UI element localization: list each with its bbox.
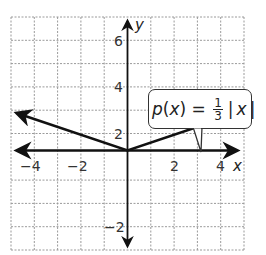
fraction-one-third: 13 bbox=[213, 97, 223, 122]
fraction-numerator: 1 bbox=[213, 97, 223, 110]
tick-label-x-neg2: −2 bbox=[67, 158, 88, 174]
close-paren: ) bbox=[180, 99, 187, 119]
function-variable: x bbox=[169, 99, 179, 119]
fraction-denominator: 3 bbox=[214, 110, 222, 122]
abs-bar-right: | bbox=[250, 99, 256, 119]
tick-label-y-4: 4 bbox=[114, 79, 123, 95]
function-name: p bbox=[152, 99, 163, 119]
tick-label-x-4: 4 bbox=[216, 158, 225, 174]
abs-variable: x bbox=[237, 99, 247, 119]
equals-sign: = bbox=[186, 99, 211, 119]
x-axis-label: x bbox=[232, 157, 242, 175]
tick-label-y-2: 2 bbox=[114, 126, 123, 142]
abs-bar-left: | bbox=[228, 99, 234, 119]
y-axis-label: y bbox=[134, 16, 145, 34]
tick-label-x-2: 2 bbox=[170, 158, 179, 174]
equation-label: p(x) = 13|x| bbox=[152, 90, 255, 128]
tick-label-y-6: 6 bbox=[114, 33, 123, 49]
tick-label-x-neg4: −4 bbox=[20, 158, 41, 174]
tick-label-y-neg2: −2 bbox=[104, 219, 125, 235]
